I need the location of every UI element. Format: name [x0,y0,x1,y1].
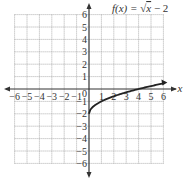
function-graph: x−6−5−4−3−2−1123456−6−5−4−3−2−11234560f(… [0,0,184,183]
y-tick-label: −4 [76,133,87,144]
y-axis-top-arrow-icon [87,3,92,9]
y-axis-bottom-arrow-icon [87,172,92,178]
x-tick-label: −2 [59,91,70,102]
y-tick-label: −3 [76,121,87,132]
y-tick-label: −5 [76,146,87,157]
y-tick-label: 6 [82,9,87,20]
x-tick-label: −5 [22,91,33,102]
x-tick-label: 5 [149,91,154,102]
x-tick-label: 4 [136,91,141,102]
y-tick-label: 2 [82,59,87,70]
y-tick-label: 5 [82,22,87,33]
y-tick-label: 1 [82,71,87,82]
x-tick-label: 6 [161,91,166,102]
x-axis-right-arrow-icon [171,87,177,92]
y-tick-label: −2 [76,108,87,119]
curve-arrow-icon [161,79,167,85]
y-tick-label: 3 [82,46,87,57]
x-tick-label: −4 [34,91,45,102]
origin-label: 0 [82,88,87,99]
y-tick-label: −6 [76,158,87,169]
x-axis-label: x [177,82,183,94]
x-tick-label: −3 [46,91,57,102]
x-tick-label: −6 [9,91,20,102]
chart-title: f(x) = √x − 2 [112,2,168,15]
y-tick-label: 4 [82,34,87,45]
